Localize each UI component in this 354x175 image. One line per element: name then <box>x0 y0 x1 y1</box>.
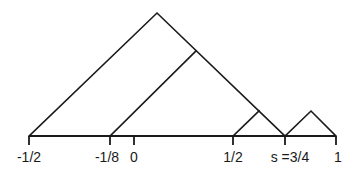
label-zero: 0 <box>130 149 138 165</box>
label-one: 1 <box>334 149 342 165</box>
small-triangle-left <box>233 111 259 136</box>
label-s-three-quarters: s =3/4 <box>271 149 310 165</box>
diagram-canvas: -1/2 -1/8 0 1/2 s =3/4 1 <box>0 0 354 175</box>
large-triangle <box>29 13 285 136</box>
inner-line <box>110 51 196 136</box>
label-neg-eighth: -1/8 <box>95 149 119 165</box>
label-half: 1/2 <box>223 149 243 165</box>
label-neg-half: -1/2 <box>17 149 41 165</box>
small-triangle-right <box>285 111 336 136</box>
